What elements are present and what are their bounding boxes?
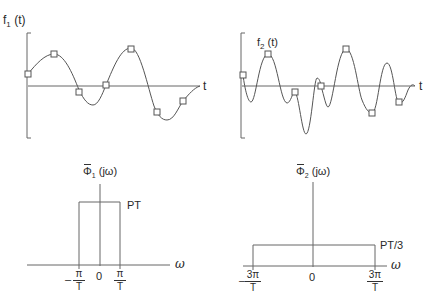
f1-curve <box>28 48 200 120</box>
phi2-title: Φ2 (jω) <box>296 165 330 179</box>
phi2-title-main: Φ <box>296 165 305 177</box>
f2-title: f2 (t) <box>257 37 278 51</box>
phi1-tick-left-den: T <box>73 281 85 292</box>
f2-curve <box>243 49 415 134</box>
phi2-plot <box>243 182 387 270</box>
phi2-tick-right: 3π T <box>367 270 383 293</box>
phi1-title-arg: (jω) <box>96 165 117 177</box>
phi1-tick-right: π T <box>114 269 126 292</box>
phi1-plot <box>27 184 170 269</box>
phi1-tick-left-sign: – <box>65 273 71 285</box>
phi2-tick-right-den: T <box>367 282 383 293</box>
phi2-omega-label: ω <box>391 259 401 271</box>
f1-title-arg: (t) <box>11 13 26 27</box>
phi1-title: Φ1 (jω) <box>83 165 117 179</box>
f2-t-axis-label: t <box>419 80 422 92</box>
phi1-omega-label: ω <box>175 258 185 270</box>
phi1-tick-left: π T <box>73 269 85 292</box>
phi1-tick-zero: 0 <box>96 271 102 282</box>
phi2-tick-zero: 0 <box>309 272 315 283</box>
phi2-rectangle <box>253 245 375 266</box>
f1-t-axis-label: t <box>203 80 206 92</box>
phi1-tick-right-den: T <box>114 281 126 292</box>
phi1-tick-left-num: π <box>73 269 85 281</box>
diagram-canvas <box>0 0 439 303</box>
f1-plot <box>25 33 200 138</box>
f2-title-arg: (t) <box>265 36 278 48</box>
phi1-title-main: Φ <box>83 165 92 177</box>
f1-sample-markers <box>25 46 186 115</box>
phi2-tick-left-num: 3π <box>245 270 261 282</box>
f1-title: f1 (t) <box>3 14 25 29</box>
phi1-tick-right-num: π <box>114 269 126 281</box>
phi2-title-arg: (jω) <box>309 165 330 177</box>
phi2-tick-left: 3π T <box>245 270 261 293</box>
phi2-tick-right-num: 3π <box>367 270 383 282</box>
phi2-tick-left-den: T <box>245 282 261 293</box>
phi1-height-label: PT <box>127 200 141 211</box>
phi2-height-label: PT/3 <box>380 240 403 251</box>
